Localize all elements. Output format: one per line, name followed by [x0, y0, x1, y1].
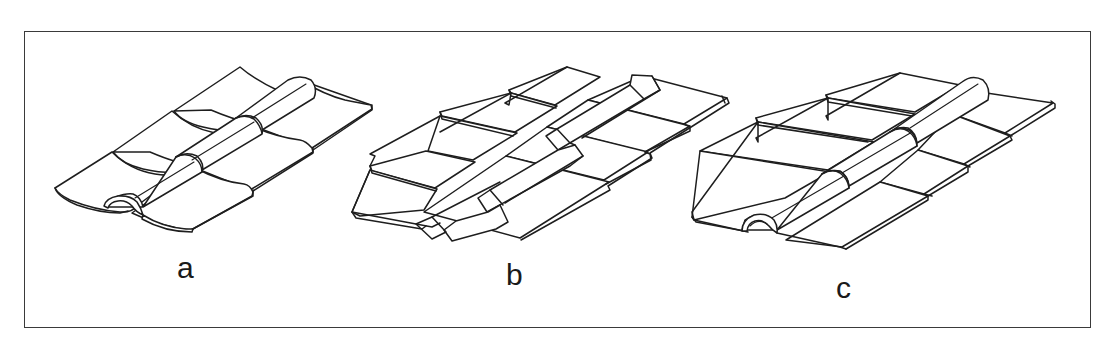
- roof-tile-diagram-c: [0, 0, 1120, 343]
- panel-label-c: c: [836, 273, 851, 303]
- panel-c: c: [0, 0, 1120, 343]
